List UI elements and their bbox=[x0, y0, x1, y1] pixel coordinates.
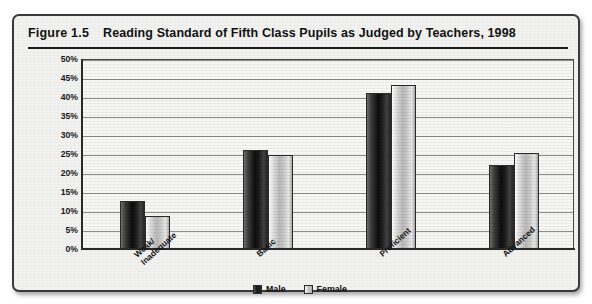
bar-male[interactable] bbox=[120, 201, 145, 248]
bar-male[interactable] bbox=[489, 165, 514, 248]
y-axis-tick-label: 50% bbox=[36, 54, 78, 64]
y-axis-tick-label: 10% bbox=[36, 206, 78, 216]
y-axis-tick-label: 15% bbox=[36, 187, 78, 197]
y-axis-tick-labels: 0%5%10%15%20%25%30%35%40%45%50% bbox=[36, 59, 78, 249]
page-title: Reading Standard of Fifth Class Pupils a… bbox=[103, 26, 516, 40]
chart-legend: MaleFemale bbox=[36, 284, 564, 294]
title-divider bbox=[28, 47, 568, 49]
y-axis-tick-label: 40% bbox=[36, 92, 78, 102]
figure-title-row: Figure 1.5 Reading Standard of Fifth Cla… bbox=[28, 26, 516, 40]
bar-group bbox=[452, 60, 575, 248]
bar-group bbox=[206, 60, 329, 248]
legend-label: Male bbox=[266, 284, 286, 294]
figure-frame: Figure 1.5 Reading Standard of Fifth Cla… bbox=[12, 14, 580, 292]
y-axis-tick-label: 25% bbox=[36, 149, 78, 159]
bar-group bbox=[329, 60, 452, 248]
bar-male[interactable] bbox=[243, 150, 268, 248]
y-axis-tick-label: 35% bbox=[36, 111, 78, 121]
y-axis-tick-label: 0% bbox=[36, 244, 78, 254]
plot-area bbox=[82, 59, 574, 249]
legend-label: Female bbox=[317, 284, 347, 294]
y-axis-tick-label: 30% bbox=[36, 130, 78, 140]
bar-chart: 0%5%10%15%20%25%30%35%40%45%50% Weak/ In… bbox=[36, 52, 564, 288]
y-axis-line bbox=[81, 59, 83, 250]
square-swatch-dark-icon bbox=[253, 285, 262, 294]
legend-item[interactable]: Female bbox=[304, 284, 347, 294]
bar-male[interactable] bbox=[366, 93, 391, 248]
square-swatch-light-icon bbox=[304, 285, 313, 294]
legend-item[interactable]: Male bbox=[253, 284, 286, 294]
y-axis-tick-label: 20% bbox=[36, 168, 78, 178]
figure-number: Figure 1.5 bbox=[28, 26, 89, 40]
y-axis-tick-label: 45% bbox=[36, 73, 78, 83]
y-axis-tick-label: 5% bbox=[36, 225, 78, 235]
